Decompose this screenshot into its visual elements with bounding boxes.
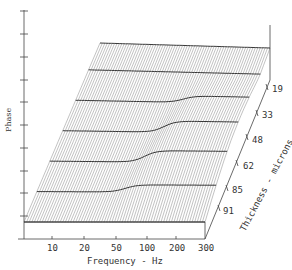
svg-text:200: 200	[169, 243, 185, 253]
svg-text:62: 62	[243, 161, 254, 171]
svg-text:91: 91	[223, 206, 234, 216]
phase-axis-label: Phase	[4, 108, 13, 132]
frequency-tick-labels: 10 20 50 100 200 300	[47, 243, 214, 253]
frequency-axis	[18, 222, 205, 239]
svg-text:85: 85	[232, 185, 243, 195]
phase-axis	[20, 10, 28, 239]
svg-text:33: 33	[262, 110, 273, 120]
thickness-tick-labels: 19 33 48 62 85 91	[223, 84, 283, 216]
svg-text:300: 300	[198, 243, 214, 253]
svg-text:10: 10	[47, 243, 58, 253]
surface-chart: Phase 10 20 50 100 200 300 Frequency - H…	[0, 0, 292, 270]
svg-text:20: 20	[79, 243, 90, 253]
thickness-axis-label: Thickness - microns	[238, 137, 292, 233]
svg-text:100: 100	[139, 243, 155, 253]
svg-text:48: 48	[252, 135, 263, 145]
frequency-axis-label: Frequency - Hz	[87, 256, 163, 266]
surface-mesh	[24, 43, 270, 222]
svg-text:19: 19	[272, 84, 283, 94]
svg-text:50: 50	[111, 243, 122, 253]
